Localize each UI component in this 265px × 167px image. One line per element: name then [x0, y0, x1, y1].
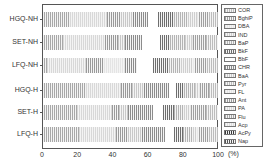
bar-segment-bbf: [148, 12, 159, 27]
bar-segment-bap: [174, 105, 185, 120]
bar-segment-ant: [86, 58, 104, 73]
legend-item: COR: [224, 6, 260, 14]
legend-swatch: [224, 16, 236, 21]
legend-label: CHR: [238, 64, 250, 70]
bar-segment-chr: [144, 83, 169, 98]
bar-hgq-h: [42, 83, 218, 98]
y-tick-label: LFQ-NH: [0, 61, 38, 68]
bar-segment-pa: [63, 35, 105, 50]
bar-segment-ant: [107, 12, 121, 27]
legend-swatch: [224, 130, 236, 135]
bar-segment-bkf: [174, 127, 183, 142]
bar-lfq-nh: [42, 58, 218, 73]
bar-segment-fl: [104, 58, 125, 73]
bar-segment-bbf: [142, 35, 160, 50]
bar-segment-bbf: [169, 83, 176, 98]
legend-swatch: [224, 81, 236, 86]
y-tick-label: LFQ-H: [0, 130, 38, 137]
bar-segment-bghip: [200, 83, 209, 98]
legend-label: BbF: [238, 56, 248, 62]
bar-segment-bbf: [165, 127, 174, 142]
bar-segment-chr: [133, 12, 147, 27]
bar-segment-cor: [209, 83, 218, 98]
legend-item: AcPy: [224, 129, 260, 137]
x-tick-label: 100: [212, 151, 224, 158]
legend-swatch: [224, 73, 236, 78]
legend-item: CHR: [224, 63, 260, 71]
bar-segment-bkf: [160, 35, 171, 50]
legend-item: PA: [224, 104, 260, 112]
legend-item: BghiP: [224, 14, 260, 22]
legend-item: BkF: [224, 47, 260, 55]
legend-swatch: [224, 139, 236, 144]
legend-swatch: [224, 49, 236, 54]
bar-segment-cor: [207, 58, 218, 73]
legend-item: BaA: [224, 72, 260, 80]
y-tick-label: HGQ-H: [0, 86, 38, 93]
legend-item: BaP: [224, 39, 260, 47]
bar-segment-baa: [119, 105, 128, 120]
bar-segment-ant: [116, 127, 128, 142]
bar-set-nh: [42, 35, 218, 50]
bar-segment-chr: [128, 105, 153, 120]
legend-label: Acp: [238, 122, 247, 128]
bar-segment-bkf: [153, 58, 169, 73]
bar-segment-chr: [125, 58, 137, 73]
stacked-bar-chart: (%) CORBghiPDBAINDBaPBkFBbFCHRBaAPyrFLAn…: [0, 0, 265, 167]
bar-segment-ant: [112, 105, 119, 120]
bar-segment-bap: [183, 127, 194, 142]
bar-segment-bghip: [195, 58, 207, 73]
bar-segment-baa: [128, 127, 142, 142]
bar-segment-bghip: [191, 105, 205, 120]
bar-segment-pa: [47, 58, 86, 73]
legend-label: Flu: [238, 114, 246, 120]
bar-segment-cor: [206, 105, 218, 120]
legend-label: FL: [238, 89, 244, 95]
bar-segment-bghip: [193, 35, 205, 50]
bar-segment-pa: [86, 83, 121, 98]
bar-segment-flu: [44, 105, 77, 120]
legend-item: FL: [224, 88, 260, 96]
legend-swatch: [224, 57, 236, 62]
bar-segment-bbf: [137, 58, 153, 73]
legend-swatch: [224, 8, 236, 13]
legend-swatch: [224, 114, 236, 119]
bar-segment-bkf: [176, 83, 185, 98]
bar-segment-pa: [77, 105, 112, 120]
bar-segment-ant: [121, 83, 132, 98]
legend-label: Pyr: [238, 81, 246, 87]
legend-item: IND: [224, 31, 260, 39]
x-axis-label: (%): [228, 150, 239, 157]
legend-swatch: [224, 89, 236, 94]
x-tick-label: 80: [179, 151, 187, 158]
x-tick-label: 40: [108, 151, 116, 158]
y-tick-label: SET-H: [0, 108, 38, 115]
legend-item: Acp: [224, 121, 260, 129]
x-tick-label: 20: [73, 151, 81, 158]
bar-segment-bbf: [153, 105, 164, 120]
bar-segment-cor: [206, 35, 218, 50]
y-tick-label: SET-NH: [0, 38, 38, 45]
legend-swatch: [224, 98, 236, 103]
bar-lfq-h: [42, 127, 218, 142]
legend-label: Ant: [238, 97, 246, 103]
bar-segment-bkf: [158, 12, 174, 27]
legend-label: DBA: [238, 23, 249, 29]
legend-swatch: [224, 65, 236, 70]
legend-item: Nap: [224, 137, 260, 145]
bar-segment-flu: [44, 35, 63, 50]
bar-segment-chr: [125, 35, 143, 50]
x-tick-label: 0: [40, 151, 44, 158]
legend-label: BaP: [238, 40, 248, 46]
bar-segment-ind: [188, 12, 197, 27]
bar-segment-ind: [181, 58, 193, 73]
bar-segment-cor: [209, 12, 218, 27]
bar-segment-bghip: [199, 12, 210, 27]
legend-label: BkF: [238, 48, 248, 54]
legend-swatch: [224, 24, 236, 29]
legend-item: BbF: [224, 55, 260, 63]
bar-segment-baa: [132, 83, 144, 98]
bar-segment-chr: [142, 127, 165, 142]
bar-segment-ind: [185, 35, 192, 50]
legend-label: BghiP: [238, 15, 253, 21]
